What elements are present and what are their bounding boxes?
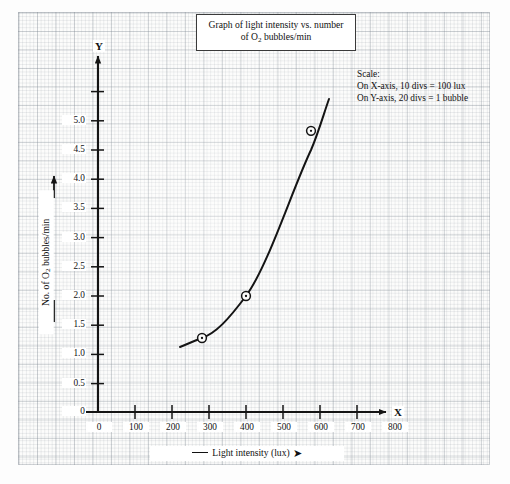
- chart-title-box: Graph of light intensity vs. number of O…: [196, 14, 356, 51]
- scale-x-line: On X-axis, 10 divs = 100 lux: [357, 81, 485, 93]
- x-axis-letter: X: [392, 406, 404, 418]
- x-axis-caption: Light intensity (lux)➤: [150, 446, 344, 461]
- x-tick-label-400: 400: [234, 422, 260, 432]
- x-tick-label-700: 700: [345, 422, 371, 432]
- x-tick-label-500: 500: [271, 422, 297, 432]
- y-axis-caption-subscript: 2: [44, 269, 52, 273]
- x-tick-label-600: 600: [308, 422, 334, 432]
- y-tick-label-4_0: 4.0: [62, 173, 86, 183]
- y-axis-letter: Y: [93, 40, 105, 52]
- data-point-2: [242, 292, 251, 301]
- scale-note-box: Scale: On X-axis, 10 divs = 100 lux On Y…: [352, 66, 489, 109]
- y-tick-label-4_5: 4.5: [62, 144, 86, 154]
- x-tick-label-200: 200: [160, 422, 186, 432]
- x-tick-label-300: 300: [197, 422, 223, 432]
- data-point-markers: [198, 126, 316, 342]
- chart-title-line2-prefix: of O: [241, 31, 258, 42]
- y-axis-caption-suffix: bubbles/min: [40, 219, 51, 269]
- y-axis-caption-prefix: No. of O: [40, 272, 51, 306]
- data-point-3: [307, 126, 316, 135]
- y-tick-label-1_5: 1.5: [62, 319, 86, 329]
- data-point-1: [198, 334, 207, 343]
- y-tick-label-3_5: 3.5: [62, 202, 86, 212]
- x-caption-arrow-icon: ➤: [293, 447, 302, 459]
- chart-title-line2-suffix: bubbles/min: [262, 31, 312, 42]
- x-axis-caption-text: Light intensity (lux): [212, 447, 289, 458]
- y-tick-label-3_0: 3.0: [62, 232, 86, 242]
- x-tick-label-0: 0: [86, 422, 112, 432]
- y-axis-caption: No. of O2 bubbles/min: [39, 190, 54, 334]
- y-tick-label-5_0: 5.0: [62, 115, 86, 125]
- x-tick-label-100: 100: [123, 422, 149, 432]
- y-tick-label-2_5: 2.5: [62, 261, 86, 271]
- data-curve: [180, 150, 311, 347]
- x-tick-label-800: 800: [382, 422, 408, 432]
- scale-heading: Scale:: [357, 69, 485, 81]
- y-tick-label-0: 0: [62, 406, 86, 416]
- chart-title-line1: Graph of light intensity vs. number: [209, 19, 344, 30]
- y-tick-label-0_5: 0.5: [62, 378, 86, 388]
- scale-y-line: On Y-axis, 20 divs = 1 bubble: [357, 93, 485, 105]
- data-curve-line: [180, 99, 329, 347]
- y-tick-label-2_0: 2.0: [62, 290, 86, 300]
- x-caption-dash: [192, 452, 208, 453]
- graph-page: Graph of light intensity vs. number of O…: [0, 0, 510, 484]
- y-tick-label-1_0: 1.0: [62, 348, 86, 358]
